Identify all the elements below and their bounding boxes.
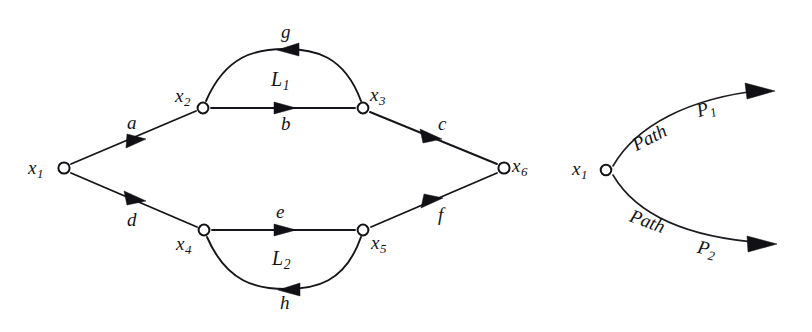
loop-label-L2: L2 <box>272 248 290 272</box>
edge-label-c: c <box>438 114 446 133</box>
node-x6[interactable] <box>498 162 509 173</box>
node-label-x4: x4 <box>176 234 191 257</box>
edge-label-e: e <box>276 202 284 221</box>
node-x4[interactable] <box>199 225 210 236</box>
node-label-right-x1: x1 <box>572 159 587 182</box>
figure-root: x1 x2 x3 x4 x5 x6 a b c d e f g h L1 L2 … <box>0 0 812 332</box>
edge-label-a: a <box>127 113 137 132</box>
edge-e-line <box>212 224 355 236</box>
edge-label-f: f <box>438 205 443 224</box>
figure-canvas <box>0 0 812 332</box>
edge-g-arrowhead <box>277 43 299 56</box>
node-label-x3: x3 <box>370 85 385 108</box>
edge-label-b: b <box>281 114 291 133</box>
path-p1-arrowhead <box>745 83 775 99</box>
node-label-x2: x2 <box>175 86 190 109</box>
edge-f-line <box>371 173 497 227</box>
edge-e-arrowhead <box>274 224 296 236</box>
node-x5[interactable] <box>358 225 369 236</box>
node-x2[interactable] <box>198 103 209 114</box>
loop-label-L1: L1 <box>271 69 289 93</box>
node-label-x1: x1 <box>28 158 43 181</box>
edge-c-line <box>370 112 497 164</box>
edge-label-d: d <box>127 210 137 229</box>
node-right-x1[interactable] <box>601 165 612 176</box>
node-label-x6: x6 <box>512 156 527 179</box>
edge-label-g: g <box>281 22 291 41</box>
edge-label-h: h <box>280 293 290 312</box>
node-label-x5: x5 <box>371 233 386 256</box>
path-p2-arrowhead <box>747 236 777 252</box>
node-x3[interactable] <box>358 103 369 114</box>
node-x1[interactable] <box>58 162 69 173</box>
